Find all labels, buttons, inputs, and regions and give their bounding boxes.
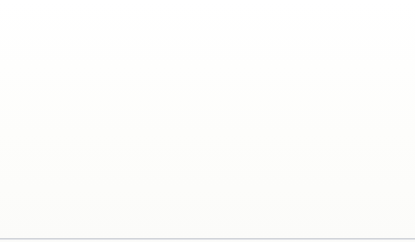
legend-item[interactable]: Religion bbox=[250, 37, 410, 55]
legend-color-swatch bbox=[250, 148, 259, 158]
legend-item-label: Environment/Animals bbox=[265, 166, 356, 176]
legend-item[interactable]: Gifts to Foundations bbox=[250, 179, 410, 197]
pie-chart-figure: 32%15%12%8%7%5%4%3%12%2% ReligionEducati… bbox=[0, 0, 415, 242]
bottom-rule bbox=[0, 238, 415, 239]
legend-item[interactable]: Gifts to Individuals bbox=[250, 197, 410, 215]
chart-legend: ReligionEducationHuman ServicesHealthPub… bbox=[250, 37, 410, 215]
legend-item-label: Arts, Culture, Humanities bbox=[265, 130, 372, 140]
legend-item[interactable]: Health bbox=[250, 90, 410, 108]
legend-item-label: Gifts to Foundations bbox=[265, 184, 351, 194]
legend-item-label: Religion bbox=[265, 41, 300, 51]
pie-chart-svg bbox=[22, 18, 234, 230]
legend-item-label: Public-Society Benefit bbox=[265, 112, 359, 122]
legend-item-label: Human Services bbox=[265, 77, 335, 87]
legend-color-swatch bbox=[250, 59, 259, 69]
legend-item-label: Gifts to Individuals bbox=[265, 201, 344, 211]
legend-color-swatch bbox=[250, 183, 259, 193]
legend-item-label: International Affairs bbox=[265, 148, 347, 158]
legend-item[interactable]: Arts, Culture, Humanities bbox=[250, 126, 410, 144]
pie-chart: 32%15%12%8%7%5%4%3%12%2% bbox=[22, 18, 234, 230]
legend-item[interactable]: Environment/Animals bbox=[250, 162, 410, 180]
legend-item[interactable]: Public-Society Benefit bbox=[250, 108, 410, 126]
legend-color-swatch bbox=[250, 94, 259, 104]
legend-color-swatch bbox=[250, 201, 259, 211]
pie-slice-group bbox=[23, 19, 234, 230]
legend-color-swatch bbox=[250, 41, 259, 51]
legend-item[interactable]: Education bbox=[250, 55, 410, 73]
legend-item-label: Education bbox=[265, 59, 308, 69]
legend-item[interactable]: Human Services bbox=[250, 73, 410, 91]
bottom-rule-secondary bbox=[0, 239, 415, 240]
legend-item[interactable]: International Affairs bbox=[250, 144, 410, 162]
legend-color-swatch bbox=[250, 165, 259, 175]
legend-item-label: Health bbox=[265, 95, 293, 105]
legend-color-swatch bbox=[250, 112, 259, 122]
legend-color-swatch bbox=[250, 130, 259, 140]
legend-color-swatch bbox=[250, 76, 259, 86]
